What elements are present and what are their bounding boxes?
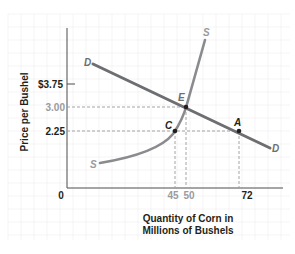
x-tick-label-50: 50 bbox=[183, 190, 195, 201]
x-tick-label-45: 45 bbox=[167, 190, 179, 201]
supply-demand-chart: D D S S E C A $3.75 3.00 2.25 0 45 50 72… bbox=[0, 0, 295, 254]
point-e bbox=[184, 105, 189, 110]
point-c bbox=[173, 129, 178, 134]
y-axis-title: Price per Bushel bbox=[19, 72, 30, 151]
demand-label-bottom: D bbox=[272, 143, 279, 154]
demand-curve bbox=[93, 64, 270, 148]
x-tick-label-72: 72 bbox=[241, 190, 253, 201]
x-axis-title-line2: Millions of Bushels bbox=[142, 225, 234, 236]
point-c-label: C bbox=[165, 120, 173, 131]
point-e-label: E bbox=[178, 92, 185, 103]
y-tick-label-3-75: $3.75 bbox=[38, 79, 63, 90]
supply-label-top: S bbox=[203, 27, 210, 38]
demand-label-top: D bbox=[84, 57, 91, 68]
origin-label: 0 bbox=[58, 190, 64, 201]
y-tick-label-2-25: 2.25 bbox=[46, 126, 66, 137]
supply-curve bbox=[100, 40, 205, 163]
supply-label-bottom: S bbox=[90, 159, 97, 170]
point-a-label: A bbox=[233, 117, 241, 128]
y-tick-label-3-00: 3.00 bbox=[46, 102, 66, 113]
point-a bbox=[237, 129, 242, 134]
x-axis-title-line1: Quantity of Corn in bbox=[143, 213, 234, 224]
